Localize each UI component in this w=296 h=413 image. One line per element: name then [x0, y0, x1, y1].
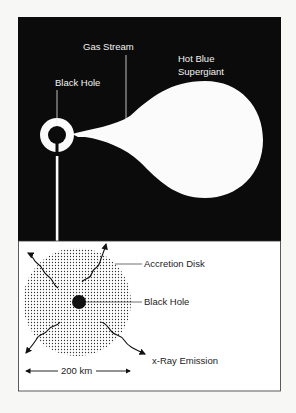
- binary-star-diagram: Gas Stream Hot Blue Supergiant Black Hol…: [0, 0, 296, 413]
- black-hole-dot: [48, 126, 66, 144]
- black-hole-label-top: Black Hole: [55, 77, 100, 88]
- xray-emission-label: x-Ray Emission: [152, 355, 218, 366]
- connector-line: [56, 156, 59, 242]
- black-hole-label-bottom: Black Hole: [144, 296, 189, 307]
- accretion-disk-label: Accretion Disk: [144, 258, 205, 269]
- gas-stream-label: Gas Stream: [83, 41, 134, 52]
- top-panel: Gas Stream Hot Blue Supergiant Black Hol…: [18, 17, 281, 242]
- scale-label: 200 km: [61, 365, 92, 376]
- supergiant-label-line2: Supergiant: [178, 66, 224, 77]
- supergiant-label-line1: Hot Blue: [178, 53, 214, 64]
- ring-notch: [56, 143, 59, 153]
- black-hole-center: [72, 295, 86, 309]
- bottom-panel: Accretion Disk Black Hole x-Ray Emission…: [19, 241, 281, 391]
